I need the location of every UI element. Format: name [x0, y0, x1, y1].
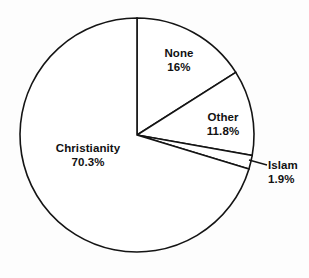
leader-line-islam	[249, 160, 267, 165]
pie-label-value-other: 11.8%	[207, 125, 239, 139]
pie-chart-canvas	[0, 0, 309, 278]
pie-label-christianity: Christianity70.3%	[56, 142, 120, 169]
pie-label-name-islam: Islam	[268, 159, 298, 173]
leader-line-group	[249, 160, 267, 165]
pie-chart: None16%Other11.8%Islam1.9%Christianity70…	[0, 0, 309, 278]
pie-label-name-christianity: Christianity	[56, 142, 120, 156]
pie-label-name-none: None	[164, 47, 193, 61]
pie-label-none: None16%	[164, 47, 193, 74]
pie-label-value-islam: 1.9%	[268, 173, 298, 187]
pie-label-name-other: Other	[207, 111, 239, 125]
pie-label-value-none: 16%	[164, 61, 193, 75]
pie-label-other: Other11.8%	[207, 111, 239, 138]
pie-label-value-christianity: 70.3%	[56, 156, 120, 170]
pie-label-islam: Islam1.9%	[268, 159, 298, 186]
